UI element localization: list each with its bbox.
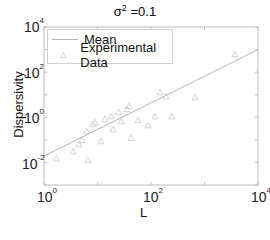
triangle-marker-icon [52, 52, 74, 58]
legend: Mean Experimental Data [47, 29, 173, 64]
y-tick-label-3: 10-2 [22, 157, 45, 171]
y-tick-label-1: 102 [24, 66, 44, 80]
x-tick-label-2: 104 [251, 190, 270, 204]
legend-item-experimental-data: Experimental Data [48, 47, 172, 63]
y-tick-label-0: 104 [24, 20, 44, 34]
line-swatch-icon [52, 39, 78, 40]
y-tick-label-2: 100 [24, 111, 44, 125]
x-tick-label-0: 100 [37, 190, 57, 204]
x-axis-label: L [140, 205, 147, 220]
x-tick-label-1: 102 [143, 190, 163, 204]
legend-label-experimental-data: Experimental Data [80, 40, 172, 70]
